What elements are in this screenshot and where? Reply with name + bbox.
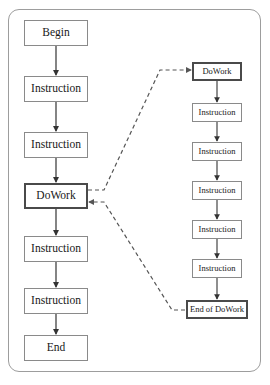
node-sub-instruction-5[interactable]: Instruction (192, 259, 242, 278)
node-main-instruction-1-label: Instruction (31, 83, 81, 95)
node-sub-end-of-dowork[interactable]: End of DoWork (186, 300, 248, 319)
node-sub-instruction-3[interactable]: Instruction (192, 181, 242, 200)
flowchart-diagram: Begin Instruction Instruction DoWork Ins… (0, 0, 270, 385)
node-sub-instruction-4-label: Instruction (199, 225, 236, 234)
node-sub-instruction-1-label: Instruction (199, 108, 236, 117)
node-end[interactable]: End (24, 335, 88, 361)
node-sub-instruction-1[interactable]: Instruction (192, 103, 242, 122)
node-sub-instruction-4[interactable]: Instruction (192, 220, 242, 239)
node-main-instruction-4-label: Instruction (31, 295, 81, 307)
node-sub-dowork-entry-label: DoWork (202, 67, 231, 76)
node-main-instruction-4[interactable]: Instruction (24, 288, 88, 314)
node-main-dowork-call[interactable]: DoWork (24, 183, 88, 209)
node-main-dowork-call-label: DoWork (36, 190, 75, 202)
node-end-label: End (47, 342, 66, 354)
node-main-instruction-3-label: Instruction (31, 243, 81, 255)
node-main-instruction-2[interactable]: Instruction (24, 132, 88, 158)
node-sub-dowork-entry[interactable]: DoWork (192, 62, 242, 81)
node-sub-instruction-2[interactable]: Instruction (192, 142, 242, 161)
node-sub-instruction-3-label: Instruction (199, 186, 236, 195)
node-sub-end-of-dowork-label: End of DoWork (190, 305, 244, 314)
node-sub-instruction-2-label: Instruction (199, 147, 236, 156)
node-main-instruction-2-label: Instruction (31, 139, 81, 151)
node-begin[interactable]: Begin (24, 20, 88, 46)
node-begin-label: Begin (42, 27, 69, 39)
node-sub-instruction-5-label: Instruction (199, 264, 236, 273)
node-main-instruction-3[interactable]: Instruction (24, 236, 88, 262)
node-main-instruction-1[interactable]: Instruction (24, 76, 88, 102)
